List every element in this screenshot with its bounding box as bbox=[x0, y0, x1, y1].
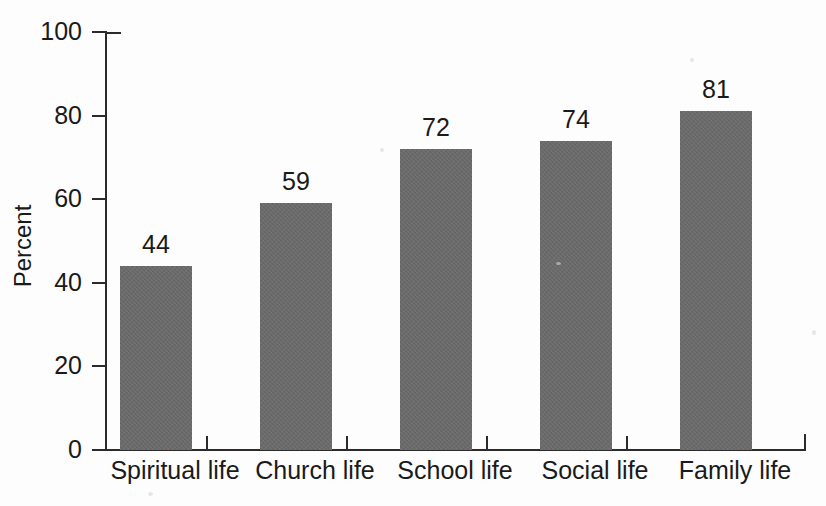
y-axis-tick-label: 20 bbox=[12, 353, 82, 378]
y-axis-tick-label: 80 bbox=[12, 103, 82, 128]
bar-value-label: 59 bbox=[240, 169, 352, 194]
scan-speck bbox=[148, 492, 153, 496]
scan-speck bbox=[556, 262, 561, 265]
bar-value-label: 44 bbox=[100, 232, 212, 257]
bar bbox=[260, 203, 332, 450]
scan-speck bbox=[690, 58, 694, 62]
scan-speck bbox=[380, 148, 384, 152]
bar-value-label: 72 bbox=[380, 115, 492, 140]
y-axis-tick-label: 40 bbox=[12, 270, 82, 295]
y-axis-tick-label: 0 bbox=[12, 437, 82, 462]
bar bbox=[400, 149, 472, 450]
bar bbox=[120, 266, 192, 450]
plot-area: 4459727481 bbox=[105, 32, 805, 450]
y-axis-tick-label: 60 bbox=[12, 186, 82, 211]
bar-value-label: 74 bbox=[520, 107, 632, 132]
x-axis-category-label: Church life bbox=[239, 458, 391, 483]
bar-chart: Percent 100806040200 4459727481 Spiritua… bbox=[0, 0, 826, 506]
scan-speck bbox=[812, 330, 816, 335]
bar bbox=[680, 111, 752, 450]
x-axis-category-label: Social life bbox=[519, 458, 671, 483]
x-axis-category-label: Spiritual life bbox=[99, 458, 251, 483]
x-axis-category-label: Family life bbox=[659, 458, 811, 483]
bar-value-label: 81 bbox=[660, 77, 772, 102]
x-axis-category-label: School life bbox=[379, 458, 531, 483]
y-axis-tick-label: 100 bbox=[12, 19, 82, 44]
bar bbox=[540, 141, 612, 450]
